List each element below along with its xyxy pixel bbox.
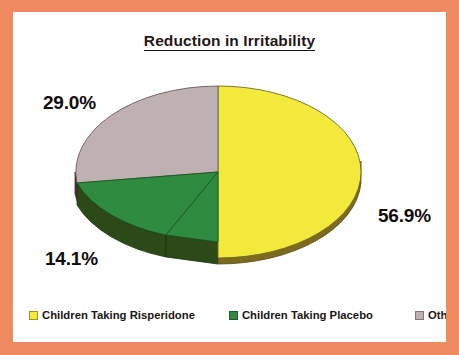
pie-slice-risperidone: [218, 86, 361, 258]
slice-label-risperidone: 56.9%: [378, 205, 431, 227]
legend-swatch-icon-risperidone: [29, 311, 38, 320]
slice-label-placebo: 14.1%: [45, 248, 98, 270]
legend-item-other[interactable]: Other: [415, 309, 446, 321]
legend-label-other: Other: [428, 309, 446, 321]
pie-slice-other: [76, 86, 218, 183]
slice-label-other: 29.0%: [43, 92, 96, 114]
chart-canvas: Reduction in Irritability 29.0% 14.1% 56…: [13, 12, 446, 342]
pie-chart-screenshot: Reduction in Irritability 29.0% 14.1% 56…: [0, 0, 459, 355]
pie-chart-graphic: [13, 12, 446, 342]
legend-label-placebo: Children Taking Placebo: [242, 309, 373, 321]
legend-item-risperidone[interactable]: Children Taking Risperidone: [29, 309, 195, 321]
legend-swatch-icon-placebo: [229, 311, 238, 320]
legend-item-placebo[interactable]: Children Taking Placebo: [229, 309, 373, 321]
legend-swatch-icon-other: [415, 311, 424, 320]
chart-legend: Children Taking Risperidone Children Tak…: [13, 300, 446, 330]
legend-label-risperidone: Children Taking Risperidone: [42, 309, 195, 321]
